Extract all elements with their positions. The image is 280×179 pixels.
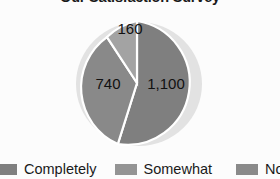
legend-label-completely: Completely (24, 162, 97, 177)
legend-swatch-not (236, 164, 258, 175)
legend-label-somewhat: Somewhat (144, 162, 213, 177)
chart-legend: Completely Somewhat Not (0, 160, 280, 179)
legend-item-completely[interactable]: Completely (0, 162, 97, 177)
legend-label-not: Not (265, 162, 280, 177)
slice-label-somewhat: 740 (95, 75, 120, 92)
plot-area: 1,100 740 160 (0, 8, 280, 153)
legend-item-not[interactable]: Not (236, 162, 280, 177)
legend-swatch-somewhat (115, 164, 137, 175)
legend-swatch-completely (0, 164, 17, 175)
slice-label-not: 160 (117, 20, 142, 37)
pie-svg: 1,100 740 160 (0, 8, 280, 153)
legend-item-somewhat[interactable]: Somewhat (115, 162, 213, 177)
pie-chart-figure: Our Satisfaction Survey 1,100 740 160 Co… (0, 0, 280, 179)
chart-title: Our Satisfaction Survey (0, 0, 280, 5)
slice-label-completely: 1,100 (147, 75, 185, 92)
